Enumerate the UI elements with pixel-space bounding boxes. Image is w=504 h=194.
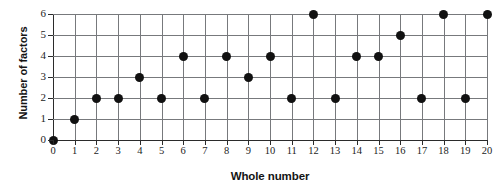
x-axis-tick-mark [313,140,314,145]
y-axis-tick-mark [48,119,53,120]
y-axis-tick-label: 5 [30,28,46,40]
x-axis-tick-mark [183,140,184,145]
data-point [200,94,209,103]
x-axis-tick-label: 20 [474,145,500,156]
data-point [439,10,448,19]
x-axis-tick-mark [248,140,249,145]
y-axis-tick-mark [48,35,53,36]
x-axis-tick-mark [270,140,271,145]
data-point [309,10,318,19]
grid-line-horizontal [53,77,487,78]
data-point [222,52,231,61]
y-axis-title: Number of factors [17,3,29,143]
factors-scatter-chart: Number of factors Whole number 012345678… [0,0,504,194]
x-axis-tick-mark [140,140,141,145]
x-axis-tick-mark [162,140,163,145]
x-axis-tick-mark [400,140,401,145]
y-axis-tick-label: 1 [30,112,46,124]
x-axis-tick-mark [53,140,54,145]
data-point [70,115,79,124]
y-axis-tick-label: 0 [30,133,46,145]
data-point [287,94,296,103]
data-point [331,94,340,103]
data-point [92,94,101,103]
data-point [135,73,144,82]
data-point [266,52,275,61]
y-axis-tick-label: 2 [30,91,46,103]
y-axis-tick-label: 3 [30,70,46,82]
x-axis-tick-mark [205,140,206,145]
x-axis-tick-mark [444,140,445,145]
x-axis-tick-mark [227,140,228,145]
y-axis-tick-mark [48,56,53,57]
y-axis-tick-mark [48,14,53,15]
x-axis-tick-mark [465,140,466,145]
data-point [114,94,123,103]
y-axis-tick-mark [48,140,53,141]
x-axis-tick-mark [75,140,76,145]
x-axis-tick-mark [422,140,423,145]
x-axis-tick-mark [118,140,119,145]
data-point [179,52,188,61]
x-axis-title: Whole number [53,170,487,182]
grid-line-horizontal [53,14,487,15]
y-axis-tick-mark [48,77,53,78]
y-axis-tick-mark [48,98,53,99]
y-axis-tick-label: 4 [30,49,46,61]
data-point [244,73,253,82]
data-point [157,94,166,103]
x-axis-tick-mark [357,140,358,145]
data-point [483,10,492,19]
x-axis-tick-mark [379,140,380,145]
data-point [417,94,426,103]
x-axis-tick-mark [335,140,336,145]
data-point [396,31,405,40]
grid-line-horizontal [53,35,487,36]
data-point [374,52,383,61]
plot-area [53,14,487,140]
data-point [352,52,361,61]
grid-line-horizontal [53,119,487,120]
grid-line-vertical [487,14,488,140]
y-axis-tick-label: 6 [30,7,46,19]
x-axis-tick-mark [487,140,488,145]
x-axis-tick-mark [292,140,293,145]
x-axis-tick-mark [96,140,97,145]
data-point [461,94,470,103]
